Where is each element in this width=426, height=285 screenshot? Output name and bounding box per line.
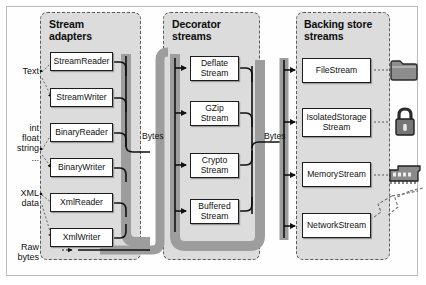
node-label: StreamWriter xyxy=(56,93,106,102)
column-title-backing-store-streams: Backing store streams xyxy=(304,19,396,42)
bus-label-bytes-left: Bytes xyxy=(142,131,164,141)
node-label: BinaryWriter xyxy=(58,163,105,172)
network-icon xyxy=(386,185,424,227)
node-label: XmlReader xyxy=(60,198,103,207)
node-memorystream[interactable]: MemoryStream xyxy=(302,162,371,187)
node-label-line2: Stream xyxy=(201,114,229,123)
memory-chip-icon xyxy=(389,163,421,185)
node-streamwriter[interactable]: StreamWriter xyxy=(50,88,113,107)
node-label: MemoryStream xyxy=(307,170,366,179)
side-label-text: Text xyxy=(2,66,39,76)
node-networkstream[interactable]: NetworkStream xyxy=(302,213,371,238)
node-label: StreamReader xyxy=(54,57,110,66)
node-streamreader[interactable]: StreamReader xyxy=(50,52,113,71)
node-label-line2: Stream xyxy=(201,212,229,221)
side-label-primitives: int float string ... xyxy=(2,123,39,163)
node-deflatestream[interactable]: Deflate Stream xyxy=(190,56,239,81)
side-label-raw-bytes: Raw bytes xyxy=(2,242,39,262)
node-cryptostream[interactable]: Crypto Stream xyxy=(190,153,239,178)
node-filestream[interactable]: FileStream xyxy=(302,58,371,83)
node-label-line2: Stream xyxy=(201,69,229,78)
node-label-line2: Stream xyxy=(323,123,351,132)
node-binaryreader[interactable]: BinaryReader xyxy=(50,123,113,142)
side-label-xml-data: XML data xyxy=(2,188,39,208)
node-xmlreader[interactable]: XmlReader xyxy=(50,193,113,212)
column-title-stream-adapters: Stream adapters xyxy=(49,19,137,42)
node-binarywriter[interactable]: BinaryWriter xyxy=(50,158,113,177)
folder-icon xyxy=(390,59,418,81)
lock-icon xyxy=(393,107,417,137)
node-label: BinaryReader xyxy=(55,128,108,137)
diagram-canvas: Stream adapters Decorator streams Backin… xyxy=(0,0,426,285)
node-bufferedstream[interactable]: Buffered Stream xyxy=(190,199,239,224)
node-label: FileStream xyxy=(316,66,358,75)
column-title-decorator-streams: Decorator streams xyxy=(172,19,260,42)
node-xmlwriter[interactable]: XmlWriter xyxy=(50,228,113,247)
node-label-line2: Stream xyxy=(201,166,229,175)
bus-label-bytes-right: Bytes xyxy=(264,131,286,141)
node-isolatedstoragestream[interactable]: IsolatedStorage Stream xyxy=(302,108,371,137)
node-label: NetworkStream xyxy=(307,221,366,230)
node-label: XmlWriter xyxy=(63,233,101,242)
node-gzipstream[interactable]: GZip Stream xyxy=(190,101,239,126)
